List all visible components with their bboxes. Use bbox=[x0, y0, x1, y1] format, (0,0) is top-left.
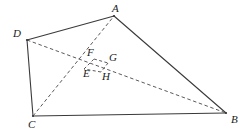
vertex-dot-D bbox=[26, 39, 28, 41]
vertex-label-A: A bbox=[112, 3, 119, 14]
vertex-label-G: G bbox=[109, 52, 117, 63]
edge-BC bbox=[33, 113, 226, 116]
vertex-dot-C bbox=[32, 115, 34, 117]
segment-FG bbox=[94, 59, 108, 63]
vertex-label-C: C bbox=[28, 119, 35, 130]
vertex-label-E: E bbox=[83, 68, 90, 79]
diagonal-DB bbox=[27, 40, 226, 113]
vertex-dot-B bbox=[225, 112, 227, 114]
geometry-figure bbox=[0, 0, 245, 137]
vertex-label-H: H bbox=[102, 71, 110, 82]
diagram-canvas: A B C D E F G H bbox=[0, 0, 245, 137]
vertex-dot-A bbox=[113, 15, 115, 17]
vertex-dots bbox=[26, 15, 227, 117]
vertex-label-D: D bbox=[13, 28, 21, 39]
edge-DA bbox=[27, 16, 114, 40]
edge-CD bbox=[27, 40, 33, 116]
solid-edges bbox=[27, 16, 226, 116]
dashed-diagonals bbox=[27, 16, 226, 116]
vertex-label-B: B bbox=[231, 114, 238, 125]
vertex-label-F: F bbox=[87, 47, 94, 58]
diagonal-CA bbox=[33, 16, 114, 116]
edge-AB bbox=[114, 16, 226, 113]
